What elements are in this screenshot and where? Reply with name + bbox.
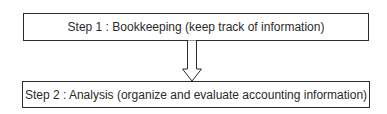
step-2-box: Step 2 : Analysis (organize and evaluate… [22,81,370,108]
down-arrow-icon [180,40,204,82]
step-1-label: Step 1 : Bookkeeping (keep track of info… [68,20,325,34]
step-2-label: Step 2 : Analysis (organize and evaluate… [25,88,367,102]
step-1-box: Step 1 : Bookkeeping (keep track of info… [23,13,369,41]
